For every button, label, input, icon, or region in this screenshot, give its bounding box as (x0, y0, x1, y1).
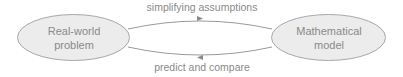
node-real-world-line2: problem (54, 38, 94, 52)
node-real-world-line1: Real-world (48, 24, 101, 38)
node-math-model-line1: Mathematical (296, 24, 361, 38)
node-real-world: Real-world problem (18, 15, 130, 60)
node-math-model-line2: model (314, 38, 344, 52)
node-math-model: Mathematical model (272, 15, 386, 60)
arrowhead-right-icon (197, 16, 203, 21)
edge-label-top: simplifying assumptions (140, 1, 264, 13)
edge-simplifying-assumptions (128, 21, 272, 29)
arrowhead-left-icon (197, 55, 203, 60)
edge-predict-and-compare (128, 47, 272, 55)
edge-label-bottom: predict and compare (140, 61, 264, 73)
modeling-cycle-diagram: Real-world problem Mathematical model si… (0, 0, 403, 77)
